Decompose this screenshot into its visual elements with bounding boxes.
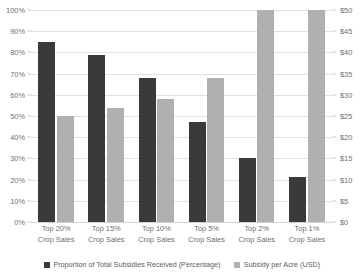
- category-label-line: Top 15%: [81, 224, 131, 235]
- y-tick-label-right: $50: [340, 6, 352, 15]
- legend-label: Subsidy per Acre (USD): [244, 261, 320, 268]
- y-tick-label-right: $35: [340, 69, 352, 78]
- y-tick-label-right: $40: [340, 48, 352, 57]
- y-tick-label-left: 40%: [10, 133, 25, 142]
- bar-proportion-of-total-subsidies: [38, 42, 55, 222]
- y-tick-label-left: 10%: [10, 196, 25, 205]
- bar-group: [182, 10, 232, 222]
- bar-group: [31, 10, 81, 222]
- y-tick-label-left: 80%: [10, 48, 25, 57]
- bar-proportion-of-total-subsidies: [189, 122, 206, 222]
- plot-area: [31, 10, 332, 222]
- y-tick-label-left: 50%: [10, 112, 25, 121]
- legend-swatch-icon: [44, 262, 50, 268]
- y-tick-label-right: $30: [340, 90, 352, 99]
- legend-swatch-icon: [234, 262, 240, 268]
- category-label-line: Crop Sales: [182, 235, 232, 246]
- category-label-line: Crop Sales: [31, 235, 81, 246]
- bar-subsidy-per-acre: [107, 108, 124, 222]
- bar-chart: 0%10%20%30%40%50%60%70%80%90%100% $0$5$1…: [0, 0, 364, 279]
- y-tick-mark-right: [332, 31, 336, 32]
- bars-layer: [31, 10, 332, 222]
- y-tick-mark-right: [332, 158, 336, 159]
- bar-proportion-of-total-subsidies: [239, 158, 256, 222]
- y-tick-label-right: $45: [340, 27, 352, 36]
- bar-proportion-of-total-subsidies: [289, 177, 306, 222]
- x-axis-categories: Top 20%Crop SalesTop 15%Crop SalesTop 10…: [31, 224, 332, 250]
- bar-subsidy-per-acre: [207, 78, 224, 222]
- y-tick-label-left: 70%: [10, 69, 25, 78]
- x-axis-category-label: Top 2%Crop Sales: [232, 224, 282, 245]
- y-tick-label-right: $25: [340, 112, 352, 121]
- bar-group: [81, 10, 131, 222]
- category-label-line: Top 20%: [31, 224, 81, 235]
- y-tick-mark-right: [332, 116, 336, 117]
- y-tick-mark-right: [332, 52, 336, 53]
- y-tick-label-left: 0%: [14, 218, 25, 227]
- x-axis-category-label: Top 15%Crop Sales: [81, 224, 131, 245]
- chart-legend: Proportion of Total Subsidies Received (…: [0, 261, 364, 268]
- gridline: [31, 222, 332, 223]
- y-tick-mark-right: [332, 179, 336, 180]
- legend-label: Proportion of Total Subsidies Received (…: [53, 261, 220, 268]
- category-label-line: Top 5%: [182, 224, 232, 235]
- category-label-line: Top 1%: [282, 224, 332, 235]
- category-label-line: Crop Sales: [282, 235, 332, 246]
- x-axis-category-label: Top 10%Crop Sales: [131, 224, 181, 245]
- bar-proportion-of-total-subsidies: [139, 78, 156, 222]
- bar-subsidy-per-acre: [257, 10, 274, 222]
- y-tick-mark-right: [332, 94, 336, 95]
- legend-item[interactable]: Proportion of Total Subsidies Received (…: [44, 261, 220, 268]
- y-tick-label-right: $0: [340, 218, 348, 227]
- y-tick-mark-right: [332, 222, 336, 223]
- bar-proportion-of-total-subsidies: [88, 55, 105, 222]
- x-axis-category-label: Top 1%Crop Sales: [282, 224, 332, 245]
- category-label-line: Crop Sales: [232, 235, 282, 246]
- y-tick-label-left: 60%: [10, 90, 25, 99]
- category-label-line: Top 10%: [131, 224, 181, 235]
- bar-group: [131, 10, 181, 222]
- x-axis-category-label: Top 20%Crop Sales: [31, 224, 81, 245]
- y-tick-label-right: $20: [340, 133, 352, 142]
- y-tick-mark-right: [332, 10, 336, 11]
- y-tick-label-right: $10: [340, 175, 352, 184]
- y-axis-right: $0$5$10$15$20$25$30$35$40$45$50: [336, 10, 364, 222]
- y-tick-label-right: $15: [340, 154, 352, 163]
- category-label-line: Crop Sales: [81, 235, 131, 246]
- y-tick-label-right: $5: [340, 196, 348, 205]
- bar-subsidy-per-acre: [308, 10, 325, 222]
- legend-item[interactable]: Subsidy per Acre (USD): [234, 261, 320, 268]
- y-axis-left: 0%10%20%30%40%50%60%70%80%90%100%: [0, 10, 28, 222]
- y-tick-label-left: 20%: [10, 175, 25, 184]
- y-tick-label-left: 90%: [10, 27, 25, 36]
- bar-group: [282, 10, 332, 222]
- y-tick-label-left: 100%: [6, 6, 25, 15]
- y-tick-label-left: 30%: [10, 154, 25, 163]
- y-tick-mark-right: [332, 73, 336, 74]
- bar-subsidy-per-acre: [157, 99, 174, 222]
- y-tick-mark-right: [332, 200, 336, 201]
- category-label-line: Top 2%: [232, 224, 282, 235]
- bar-subsidy-per-acre: [57, 116, 74, 222]
- y-tick-mark-right: [332, 137, 336, 138]
- bar-group: [232, 10, 282, 222]
- category-label-line: Crop Sales: [131, 235, 181, 246]
- x-axis-category-label: Top 5%Crop Sales: [182, 224, 232, 245]
